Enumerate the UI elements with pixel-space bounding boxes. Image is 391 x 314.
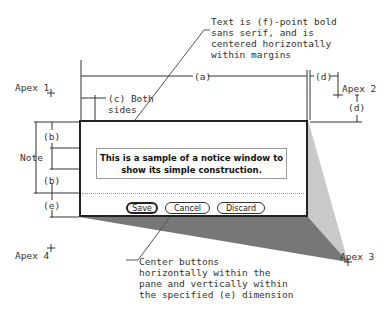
text-style-note: Text is (f)-point bold sans serif, and i… <box>211 16 337 60</box>
save-button[interactable]: Save <box>126 202 158 214</box>
dim-c-label: (c) Both sides <box>108 93 154 115</box>
dim-b-top-label: (b) <box>43 131 60 142</box>
dim-a-label: (a) <box>194 71 211 82</box>
dim-d-top-label: (d) <box>315 71 332 82</box>
apex-4-label: Apex 4 <box>15 250 49 261</box>
dim-b-bottom-label: (b) <box>43 175 60 186</box>
apex-1-label: Apex 1 <box>15 82 49 93</box>
cancel-button[interactable]: Cancel <box>165 202 210 214</box>
apex-3-label: Apex 3 <box>340 251 374 262</box>
notice-message: This is a sample of a notice window to s… <box>96 148 287 179</box>
dim-d-side-label: (d) <box>348 102 365 113</box>
button-placement-note: Center buttons horizontally within the p… <box>139 256 293 300</box>
dim-e-label: (e) <box>43 200 60 211</box>
discard-button[interactable]: Discard <box>217 202 265 214</box>
button-divider <box>82 193 304 194</box>
apex-2-label: Apex 2 <box>342 83 376 94</box>
note-label: Note <box>20 152 43 163</box>
